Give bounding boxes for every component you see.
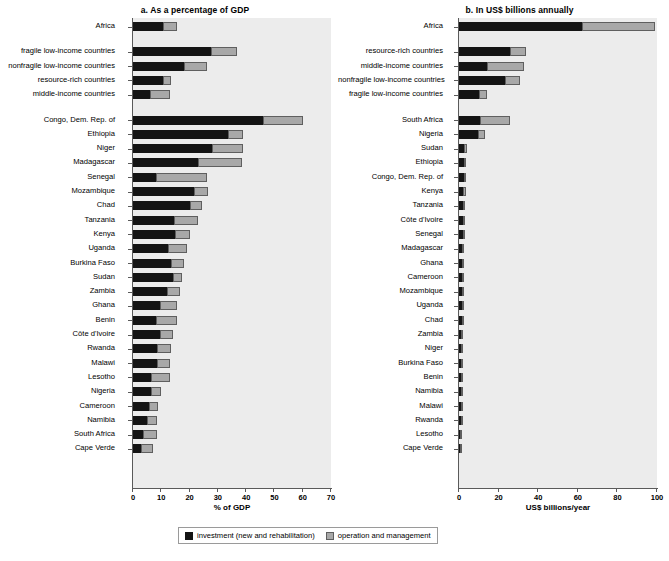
category-label: Africa	[338, 21, 443, 31]
bar-segment-operation-management	[160, 330, 173, 339]
bar-row: Benin	[459, 373, 657, 382]
y-tick	[128, 406, 132, 407]
category-label: Tanzania	[338, 200, 443, 210]
category-label: Ghana	[338, 258, 443, 268]
category-label: Namibia	[338, 386, 443, 396]
legend-item-investment: investment (new and rehabilitation)	[185, 531, 315, 540]
category-label: middle-income countries	[0, 89, 115, 99]
y-tick	[454, 392, 458, 393]
bar-segment-operation-management	[464, 173, 466, 182]
chart-panel-b: b. In US$ billions annually 020406080100…	[345, 0, 669, 561]
bar-segment-operation-management	[174, 216, 198, 225]
category-label: fragile low-income countries	[0, 46, 115, 56]
bar-segment-operation-management	[141, 444, 152, 453]
category-label: Sudan	[0, 272, 115, 282]
panel-a-title: a. As a percentage of GDP	[0, 5, 345, 15]
bar-segment-investment	[459, 22, 582, 31]
category-label: Cape Verde	[0, 443, 115, 453]
bar-row: Ethiopia	[459, 158, 657, 167]
category-label: Cape Verde	[338, 443, 443, 453]
y-tick	[454, 206, 458, 207]
y-tick	[454, 292, 458, 293]
bar-row: Cameroon	[133, 402, 331, 411]
y-tick	[128, 335, 132, 336]
bar-row: Malawi	[133, 359, 331, 368]
bar-row: resource-rich countries	[133, 76, 331, 85]
y-tick	[128, 420, 132, 421]
category-label: Mozambique	[338, 286, 443, 296]
y-tick	[128, 306, 132, 307]
bar-segment-operation-management	[463, 201, 465, 210]
bar-row: Mozambique	[133, 187, 331, 196]
category-label: Lesotho	[338, 429, 443, 439]
x-tick	[302, 488, 303, 492]
bar-row: fragile low-income countries	[459, 90, 657, 99]
y-tick	[454, 27, 458, 28]
category-label: Chad	[338, 315, 443, 325]
bar-row: Congo, Dem. Rep. of	[133, 116, 331, 125]
bar-row: South Africa	[459, 116, 657, 125]
bar-segment-investment	[133, 444, 141, 453]
y-tick	[454, 52, 458, 53]
bar-row: Sudan	[133, 273, 331, 282]
category-label: Zambia	[0, 286, 115, 296]
category-label: Mozambique	[0, 186, 115, 196]
bar-row: Rwanda	[133, 344, 331, 353]
category-label: Malawi	[0, 358, 115, 368]
bar-row: Cameroon	[459, 273, 657, 282]
y-tick	[128, 163, 132, 164]
bar-segment-investment	[133, 187, 194, 196]
bar-segment-operation-management	[582, 22, 655, 31]
bar-segment-investment	[459, 90, 479, 99]
category-label: Benin	[338, 372, 443, 382]
y-tick	[128, 206, 132, 207]
bar-segment-investment	[459, 76, 505, 85]
bar-segment-operation-management	[462, 259, 464, 268]
bar-row: Nigeria	[133, 387, 331, 396]
bar-segment-operation-management	[487, 62, 525, 71]
bar-row: middle-income countries	[459, 62, 657, 71]
category-label: Côte d'Ivoire	[338, 215, 443, 225]
x-tick-label: 20	[185, 493, 193, 502]
legend-label: operation and management	[338, 531, 431, 540]
y-tick	[128, 66, 132, 67]
category-label: middle-income countries	[338, 61, 443, 71]
bar-segment-investment	[133, 76, 163, 85]
bar-row: Cape Verde	[133, 444, 331, 453]
bar-row: Congo, Dem. Rep. of	[459, 173, 657, 182]
bar-row: Zambia	[459, 330, 657, 339]
y-tick	[454, 320, 458, 321]
x-tick-label: 50	[270, 493, 278, 502]
bar-segment-investment	[133, 116, 263, 125]
category-label: Cameroon	[338, 272, 443, 282]
y-tick	[454, 277, 458, 278]
y-tick	[454, 192, 458, 193]
bar-row: Burkina Faso	[133, 259, 331, 268]
category-label: Sudan	[338, 143, 443, 153]
x-tick	[330, 488, 331, 492]
category-label: Uganda	[0, 243, 115, 253]
bar-segment-operation-management	[462, 316, 464, 325]
legend-item-om: operation and management	[326, 531, 431, 540]
bar-row: resource-rich countries	[459, 47, 657, 56]
bar-row: Africa	[459, 22, 657, 31]
category-label: resource-rich countries	[0, 75, 115, 85]
bar-segment-operation-management	[157, 344, 171, 353]
x-tick	[273, 488, 274, 492]
y-tick	[454, 363, 458, 364]
bar-row: Niger	[459, 344, 657, 353]
bar-row: Ghana	[133, 301, 331, 310]
y-tick	[454, 263, 458, 264]
bar-segment-investment	[133, 273, 173, 282]
category-label: Côte d'Ivoire	[0, 329, 115, 339]
y-tick	[128, 149, 132, 150]
bar-segment-operation-management	[464, 144, 467, 153]
y-tick	[454, 177, 458, 178]
y-tick	[454, 335, 458, 336]
bar-segment-operation-management	[157, 359, 170, 368]
bar-segment-investment	[133, 359, 157, 368]
x-tick	[458, 488, 459, 492]
legend-label: investment (new and rehabilitation)	[197, 531, 315, 540]
bar-segment-operation-management	[163, 76, 171, 85]
y-tick	[128, 52, 132, 53]
